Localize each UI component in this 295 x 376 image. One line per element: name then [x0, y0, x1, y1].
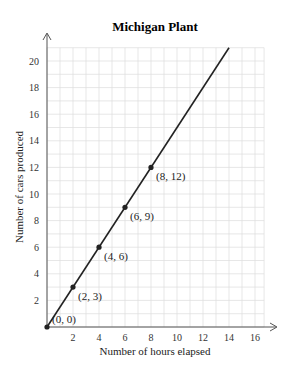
point-label: (8, 12): [156, 170, 186, 183]
y-tick-label: 6: [34, 242, 39, 253]
tick-labels: 2468101214162468101214161820: [29, 56, 260, 344]
data-point: [148, 165, 153, 170]
x-tick-label: 6: [123, 332, 128, 343]
x-tick-label: 10: [172, 332, 182, 343]
point-label: (0, 0): [52, 313, 76, 326]
x-tick-label: 16: [250, 332, 260, 343]
y-axis-label: Number of cars produced: [13, 130, 25, 243]
x-tick-label: 14: [224, 332, 234, 343]
chart-title: Michigan Plant: [112, 19, 198, 34]
point-label: (2, 3): [78, 290, 102, 303]
point-label: (6, 9): [130, 210, 154, 223]
y-tick-label: 18: [29, 82, 39, 93]
data-point: [70, 285, 75, 290]
y-tick-label: 20: [29, 56, 39, 67]
point-label: (4, 6): [104, 250, 128, 263]
data-point: [122, 205, 127, 210]
x-tick-label: 8: [149, 332, 154, 343]
y-tick-label: 16: [29, 109, 39, 120]
x-axis-label: Number of hours elapsed: [100, 345, 211, 357]
y-tick-label: 2: [34, 295, 39, 306]
x-tick-label: 2: [71, 332, 76, 343]
y-tick-label: 10: [29, 189, 39, 200]
y-tick-label: 14: [29, 135, 39, 146]
x-tick-label: 4: [97, 332, 102, 343]
line-chart: Michigan Plant 2468101214162468101214161…: [0, 0, 295, 376]
data-point: [44, 324, 49, 329]
x-tick-label: 12: [198, 332, 208, 343]
y-tick-label: 8: [34, 215, 39, 226]
y-tick-label: 4: [34, 268, 39, 279]
y-tick-label: 12: [29, 162, 39, 173]
data-point: [96, 245, 101, 250]
grid: [47, 48, 264, 327]
